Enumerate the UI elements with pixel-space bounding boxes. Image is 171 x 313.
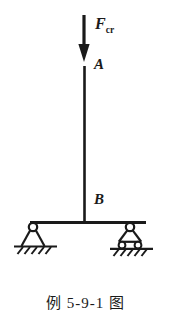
point-a-label: A — [94, 57, 104, 72]
point-b-label: B — [94, 192, 104, 207]
pin-support-left — [14, 223, 57, 254]
ground-hatching-right — [114, 249, 148, 256]
force-symbol: F — [95, 15, 106, 32]
ground-hatching-left — [18, 247, 52, 254]
force-subscript: cr — [106, 25, 115, 35]
roller-support-right — [110, 223, 153, 256]
figure-caption: 例 5-9-1 图 — [0, 291, 171, 312]
force-label: Fcr — [95, 16, 115, 36]
engineering-figure: Fcr A B 例 5-9-1 图 — [0, 0, 171, 313]
structural-diagram — [0, 0, 171, 313]
critical-load-arrow — [78, 15, 89, 62]
